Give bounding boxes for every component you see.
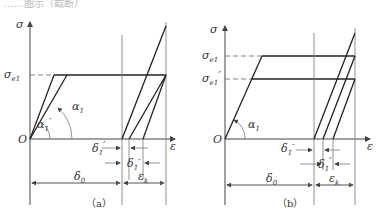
- origin-label-b: O: [213, 133, 222, 146]
- epsilon-label-a: ε: [170, 140, 176, 153]
- sigma-label-b: σ: [210, 23, 218, 36]
- epsilon-k-label-a: εk: [138, 170, 148, 185]
- epsilon-k-label-b: εk: [329, 172, 339, 187]
- sigma-label-a: σ: [16, 18, 24, 31]
- delta1-prime-label-b: δ1′: [318, 155, 332, 173]
- alpha1-label-a: α1: [72, 100, 84, 115]
- stress-strain-diagrams: σ ε O σe1 α1 α1″ δ1′ δ1″ δ0 ε: [0, 0, 385, 219]
- delta0-label-a: δ0: [74, 170, 86, 185]
- alpha1-label-b: α1: [248, 118, 260, 133]
- delta1-dprime-label-b: δ1″: [281, 142, 295, 157]
- sigma-e1-label-a: σe1: [4, 68, 20, 83]
- caption-a: （a）: [86, 198, 112, 209]
- epsilon-label-b: ε: [367, 140, 373, 153]
- figure-b: σ ε O σe1 σe1′ α1 δ1″ δ1′ δ0 εk （b）: [202, 23, 373, 209]
- caption-b: （b）: [277, 198, 303, 209]
- origin-label-a: O: [18, 133, 27, 146]
- delta0-label-b: δ0: [266, 172, 278, 187]
- figure-a: σ ε O σe1 α1 α1″ δ1′ δ1″ δ0 ε: [4, 18, 176, 209]
- sigma-e1-label-b: σe1: [202, 49, 218, 64]
- alpha1-dprime-label-a: α1″: [37, 117, 52, 133]
- delta1-prime-label-a: δ1′: [92, 139, 106, 157]
- sigma-e1-prime-label-b: σe1′: [202, 69, 221, 87]
